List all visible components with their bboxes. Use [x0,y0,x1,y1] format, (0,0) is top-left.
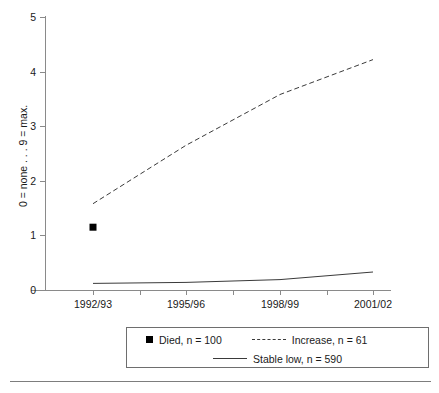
legend-label-stable-low: Stable low, n = 590 [253,353,342,365]
square-marker-icon [146,336,153,343]
legend-item-stable-low: Stable low, n = 590 [213,353,342,365]
legend-item-died: Died, n = 100 [146,334,222,346]
dashed-line-icon [252,339,286,340]
legend-item-increase: Increase, n = 61 [252,334,368,346]
series-died-square-marker [90,224,97,231]
legend-label-died: Died, n = 100 [159,334,222,346]
series-stable-low-solid-line [93,272,373,283]
bottom-divider [10,381,431,382]
solid-line-icon [213,358,247,359]
chart-figure: 0 = none . . . 9 = max. 5 4 3 2 1 0 1992… [0,0,439,393]
legend-row-top: Died, n = 100 Increase, n = 61 [127,331,439,348]
series-increase-dashed-line [93,60,373,204]
chart-legend: Died, n = 100 Increase, n = 61 Stable lo… [126,327,429,368]
legend-row-bottom: Stable low, n = 590 [127,350,428,367]
legend-label-increase: Increase, n = 61 [292,334,368,346]
